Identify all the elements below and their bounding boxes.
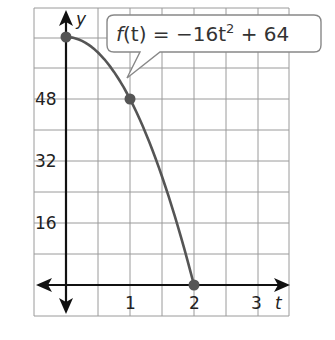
point-2-0	[189, 280, 200, 291]
y-tick-16: 16	[35, 213, 57, 233]
function-label: f(t) = −16t2 + 64	[116, 21, 289, 46]
y-axis-label: y	[75, 9, 87, 29]
y-tick-32: 32	[35, 151, 57, 171]
grid	[34, 8, 289, 316]
point-0-64	[61, 32, 72, 43]
function-graph: 48 32 16 1 2 3 t y f(t) = −16t2 + 64	[0, 0, 335, 340]
point-1-48	[125, 94, 136, 105]
y-tick-48: 48	[35, 89, 57, 109]
axes	[36, 10, 290, 314]
x-tick-3: 3	[251, 293, 262, 313]
x-tick-2: 2	[189, 293, 200, 313]
t-axis-label: t	[275, 293, 283, 313]
x-tick-1: 1	[125, 293, 136, 313]
